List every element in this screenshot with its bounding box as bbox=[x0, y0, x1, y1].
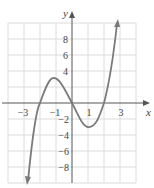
y-tick-label: −4 bbox=[58, 130, 69, 141]
x-axis-label: x bbox=[145, 106, 151, 118]
x-tick-label: −3 bbox=[18, 107, 29, 118]
y-axis-label: y bbox=[62, 7, 68, 19]
y-tick-label: −6 bbox=[58, 146, 69, 157]
x-tick-label: 3 bbox=[119, 107, 124, 118]
y-axis-arrow-icon bbox=[69, 11, 75, 18]
y-tick-label: −2 bbox=[58, 114, 69, 125]
y-tick-label: 6 bbox=[63, 50, 68, 61]
tick-labels: −3 −1 1 3 8 6 4 −2 −4 −6 −8 x y bbox=[18, 7, 151, 173]
y-tick-label: −8 bbox=[58, 162, 69, 173]
function-graph: −3 −1 1 3 8 6 4 −2 −4 −6 −8 x y bbox=[0, 0, 154, 188]
x-tick-label: 1 bbox=[87, 107, 92, 118]
y-tick-label: 8 bbox=[63, 34, 68, 45]
curve-arrow-bottom-icon bbox=[25, 176, 31, 185]
y-tick-label: 4 bbox=[63, 66, 68, 77]
